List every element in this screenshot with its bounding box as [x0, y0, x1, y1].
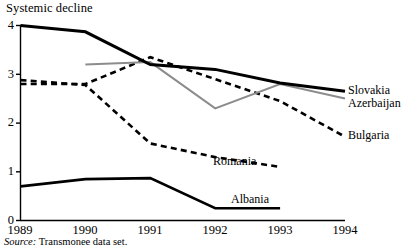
source-note-key: Source: [4, 236, 36, 247]
x-axis-tick-1994: 1994 [325, 224, 365, 237]
source-note-value: Transmonee data set. [39, 236, 128, 247]
series-line-slovakia [21, 26, 346, 92]
source-note: Source: Transmonee data set. [4, 236, 127, 248]
y-axis-tick-2: 2 [2, 116, 14, 129]
series-label-albania: Albania [231, 193, 269, 206]
chart-series-group [21, 26, 346, 209]
y-axis-tick-4: 4 [2, 19, 14, 32]
x-axis-tick-1993: 1993 [260, 224, 300, 237]
y-axis-tick-1: 1 [2, 165, 14, 178]
x-axis-tick-1991: 1991 [130, 224, 170, 237]
chart-figure: Systemic decline 4 3 2 1 0 1989 1990 199… [0, 0, 405, 251]
y-axis-tick-3: 3 [2, 68, 14, 81]
series-line-bulgaria [21, 57, 346, 137]
chart-plot-area [0, 0, 405, 251]
series-label-bulgaria: Bulgaria [348, 129, 389, 142]
x-axis-tick-1992: 1992 [195, 224, 235, 237]
series-label-romania: Romania [213, 155, 256, 168]
series-label-azerbaijan: Azerbaijan [348, 97, 401, 110]
